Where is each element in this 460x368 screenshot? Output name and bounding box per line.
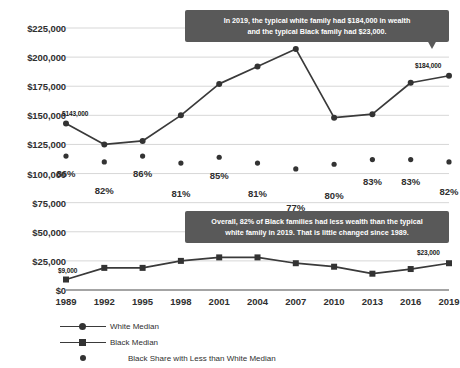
x-axis-tick-label: 1989 <box>55 296 76 307</box>
callout-top-tail <box>427 40 437 49</box>
point-value-label: $23,000 <box>417 249 440 256</box>
legend-label-white-median: White Median <box>110 322 159 331</box>
legend-item-white-median: White Median <box>58 318 453 334</box>
black-share-percent-label: 83% <box>363 176 382 187</box>
x-axis-tick-label: 2016 <box>400 296 421 307</box>
black-share-percent-label: 82% <box>439 186 458 197</box>
black-share-percent-label: 86% <box>133 168 152 179</box>
callout-bottom: Overall, 82% of Black families had less … <box>185 211 449 243</box>
black-share-percent-label: 81% <box>171 188 190 199</box>
x-axis-tick-label: 2001 <box>209 296 230 307</box>
x-axis-tick-label: 2010 <box>324 296 345 307</box>
black-share-percent-label: 82% <box>95 185 114 196</box>
chart-legend: White Median Black Median Black Share wi… <box>58 318 453 366</box>
legend-label-black-median: Black Median <box>110 338 158 347</box>
point-value-label: $184,000 <box>415 62 441 69</box>
white-median-key-icon <box>58 318 110 334</box>
x-axis-tick-label: 2007 <box>285 296 306 307</box>
x-axis-tick-label: 2019 <box>438 296 459 307</box>
black-share-percent-label: 85% <box>210 170 229 181</box>
callout-bottom-line-1: Overall, 82% of Black families had less … <box>193 216 441 227</box>
point-value-label: $9,000 <box>58 267 77 274</box>
black-share-key-icon <box>58 350 110 366</box>
x-axis-tick-label: 2013 <box>362 296 383 307</box>
callout-top-line-1: In 2019, the typical white family had $1… <box>193 15 441 26</box>
black-share-percent-label: 81% <box>248 188 267 199</box>
black-median-key-icon <box>58 334 110 350</box>
callout-bottom-line-2: white family in 2019. That is little cha… <box>193 227 441 238</box>
black-share-percent-label: 83% <box>401 176 420 187</box>
point-value-label: $143,000 <box>62 110 88 117</box>
x-axis-tick-label: 1995 <box>132 296 153 307</box>
legend-item-black-median: Black Median <box>58 334 453 350</box>
black-share-percent-label: 86% <box>56 168 75 179</box>
callout-top: In 2019, the typical white family had $1… <box>185 10 449 42</box>
callout-top-line-2: and the typical Black family had $23,000… <box>193 26 441 37</box>
x-axis-tick-label: 1992 <box>94 296 115 307</box>
legend-label-black-share: Black Share with Less than White Median <box>128 354 276 363</box>
black-share-percent-label: 80% <box>325 190 344 201</box>
x-axis-tick-label: 2004 <box>247 296 268 307</box>
legend-item-black-share: Black Share with Less than White Median <box>58 350 453 366</box>
x-axis-tick-label: 1998 <box>170 296 191 307</box>
